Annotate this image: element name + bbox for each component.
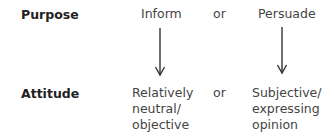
attitude-or-connector: or <box>213 85 226 101</box>
inform-option: Inform <box>141 6 182 22</box>
purpose-attitude-diagram: Purpose Inform or Persuade Attitude Rela… <box>0 0 334 136</box>
neutral-objective-option: Relatively neutral/ objective <box>132 85 193 133</box>
arrow-down-icon <box>276 26 288 76</box>
option-line: objective <box>132 117 193 133</box>
option-line: expressing <box>252 101 322 117</box>
arrow-down-icon <box>154 27 166 77</box>
subjective-opinion-option: Subjective/ expressing opinion <box>252 85 322 133</box>
purpose-or-connector: or <box>213 6 226 22</box>
option-line: Subjective/ <box>252 85 322 101</box>
option-line: neutral/ <box>132 101 193 117</box>
purpose-label: Purpose <box>21 7 79 22</box>
persuade-option: Persuade <box>258 6 316 22</box>
option-line: opinion <box>252 117 322 133</box>
attitude-label: Attitude <box>21 86 79 101</box>
option-line: Relatively <box>132 85 193 101</box>
